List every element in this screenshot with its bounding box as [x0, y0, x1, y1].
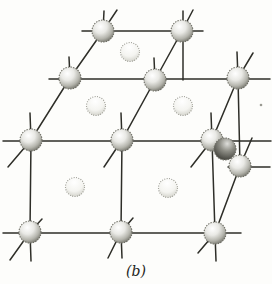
- stippled-sphere-icon-top-face-front-left-center: [87, 97, 106, 116]
- speck-icon: [260, 104, 263, 107]
- stippled-sphere-icon-top-face-back-center: [121, 43, 140, 62]
- stippled-sphere-icon-front-face-left-center: [66, 178, 85, 197]
- stippled-sphere-icon-top-face-front-right-center: [174, 97, 193, 116]
- shaded-sphere-icon-top-back-right: [171, 20, 193, 42]
- shaded-sphere-icon-top-mid-right: [227, 67, 249, 89]
- shaded-sphere-icon-bottom-front-right: [204, 222, 226, 244]
- shaded-sphere-icon-top-mid-center: [144, 69, 166, 91]
- crystal-structure-figure: (b): [0, 0, 272, 284]
- print-artifact: [260, 104, 263, 107]
- atoms: [19, 20, 251, 244]
- shaded-sphere-icon-bottom-front-left: [19, 221, 41, 243]
- dark-sphere-icon-right-face-center: [214, 138, 236, 160]
- shaded-sphere-icon-bottom-mid-right: [229, 155, 251, 177]
- figure-label: (b): [126, 263, 146, 279]
- lattice-drawing: (b): [0, 0, 272, 284]
- stippled-sphere-icon-front-face-right-center: [159, 179, 178, 198]
- shaded-sphere-icon-top-front-left: [20, 129, 42, 151]
- shaded-sphere-icon-top-mid-left: [59, 67, 81, 89]
- shaded-sphere-icon-top-back-left: [92, 20, 114, 42]
- shaded-sphere-icon-top-front-center: [111, 129, 133, 151]
- shaded-sphere-icon-bottom-front-center: [110, 221, 132, 243]
